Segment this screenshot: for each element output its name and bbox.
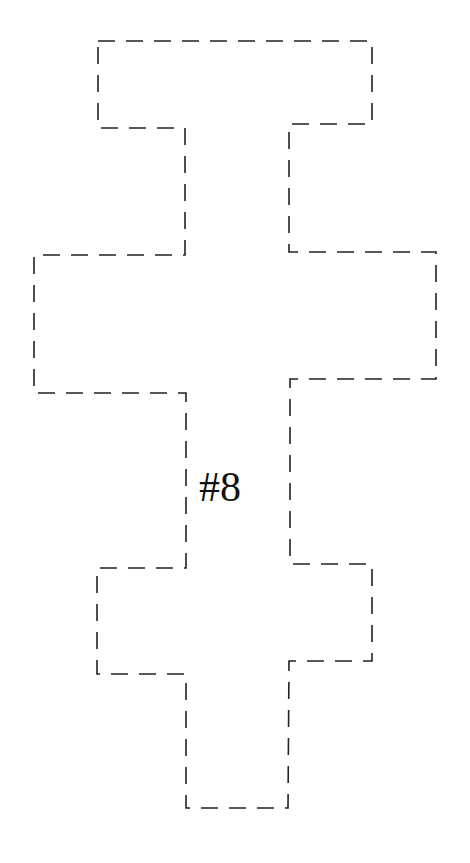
shape-number-label: #8 bbox=[199, 466, 241, 508]
dashed-cross-outline bbox=[34, 41, 436, 808]
cross-shape-diagram bbox=[0, 0, 470, 863]
